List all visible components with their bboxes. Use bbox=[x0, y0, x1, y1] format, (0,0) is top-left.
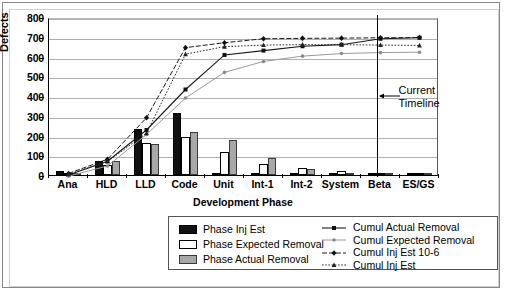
legend-line-icon bbox=[321, 223, 347, 232]
data-point-marker bbox=[223, 71, 227, 75]
legend-item: Phase Inj Est bbox=[179, 223, 265, 235]
data-line bbox=[69, 52, 420, 176]
x-tick-label: Beta bbox=[368, 178, 391, 190]
legend-item-label: Phase Inj Est bbox=[203, 223, 265, 235]
legend-item-label: Cumul Actual Removal bbox=[353, 221, 459, 233]
legend-swatch-icon bbox=[179, 240, 197, 249]
data-point-marker bbox=[418, 50, 422, 54]
y-tick-label: 400 bbox=[0, 91, 44, 103]
legend-item-label: Cumul Inj Est 10-6 bbox=[353, 246, 439, 258]
legend-item-label: Phase Expected Removal bbox=[203, 238, 324, 250]
y-tick-mark bbox=[40, 38, 44, 39]
data-point-marker bbox=[379, 51, 383, 55]
y-tick-label: 600 bbox=[0, 52, 44, 64]
current-timeline-label: CurrentTimeline bbox=[399, 84, 440, 109]
y-tick-mark bbox=[40, 117, 44, 118]
x-tick-label: ES/GS bbox=[402, 178, 434, 190]
plot-area: CurrentTimeline bbox=[48, 18, 438, 176]
x-tick-label: Int-2 bbox=[290, 178, 312, 190]
x-tick-mark bbox=[399, 174, 400, 178]
y-tick-label: 100 bbox=[0, 150, 44, 162]
y-tick-label: 500 bbox=[0, 71, 44, 83]
x-tick-mark bbox=[204, 174, 205, 178]
y-tick-mark bbox=[40, 58, 44, 59]
legend-swatch-icon bbox=[179, 225, 197, 234]
y-tick-label: 200 bbox=[0, 131, 44, 143]
y-tick-mark bbox=[40, 97, 44, 98]
legend-item: Cumul Actual Removal bbox=[321, 221, 459, 233]
data-point-marker bbox=[262, 60, 266, 64]
legend-item: Cumul Inj Est 10-6 bbox=[321, 246, 439, 258]
data-point-marker bbox=[339, 35, 344, 41]
y-tick-mark bbox=[40, 77, 44, 78]
x-tick-label: Code bbox=[171, 178, 197, 190]
data-point-marker bbox=[261, 36, 266, 42]
data-point-marker bbox=[261, 42, 266, 47]
legend-swatch-icon bbox=[179, 255, 197, 264]
x-tick-mark bbox=[282, 174, 283, 178]
x-tick-label: Ana bbox=[58, 178, 78, 190]
x-tick-label: System bbox=[322, 178, 359, 190]
x-tick-label: Unit bbox=[213, 178, 233, 190]
x-tick-label: LLD bbox=[135, 178, 155, 190]
data-point-marker bbox=[301, 54, 305, 58]
y-tick-label: 0 bbox=[0, 170, 44, 182]
data-point-marker bbox=[106, 164, 110, 168]
legend: Phase Inj EstPhase Expected RemovalPhase… bbox=[168, 216, 504, 272]
plot-area-wrapper: CurrentTimeline bbox=[48, 18, 438, 176]
data-point-marker bbox=[184, 96, 188, 100]
legend-line-icon bbox=[321, 235, 347, 244]
data-point-marker bbox=[223, 53, 227, 57]
legend-item-label: Phase Actual Removal bbox=[203, 253, 309, 265]
legend-item-label: Cumul Inj Est bbox=[353, 259, 415, 271]
data-point-marker bbox=[340, 52, 344, 56]
legend-line-icon bbox=[321, 248, 347, 257]
y-tick-mark bbox=[40, 18, 44, 19]
y-tick-mark bbox=[40, 176, 44, 177]
data-line bbox=[69, 38, 420, 174]
chart-screenshot: Defects 0100200300400500600700800 Curren… bbox=[0, 0, 506, 292]
data-point-marker bbox=[300, 36, 305, 42]
x-tick-mark bbox=[360, 174, 361, 178]
timeline-label-line2: Timeline bbox=[399, 97, 440, 109]
legend-item: Cumul Expected Removal bbox=[321, 234, 474, 246]
x-tick-mark bbox=[87, 174, 88, 178]
y-tick-label: 700 bbox=[0, 32, 44, 44]
x-axis-tick-labels: AnaHLDLLDCodeUnitInt-1Int-2SystemBetaES/… bbox=[48, 178, 438, 194]
legend-line-icon bbox=[321, 260, 347, 269]
y-tick-mark bbox=[40, 137, 44, 138]
data-point-marker bbox=[183, 45, 188, 51]
x-tick-label: Int-1 bbox=[251, 178, 273, 190]
x-tick-mark bbox=[48, 174, 49, 178]
timeline-arrow-icon bbox=[378, 91, 402, 101]
x-axis-title: Development Phase bbox=[48, 196, 438, 208]
x-tick-mark bbox=[126, 174, 127, 178]
x-tick-label: HLD bbox=[96, 178, 118, 190]
x-tick-mark bbox=[438, 174, 439, 178]
y-tick-mark bbox=[40, 156, 44, 157]
data-point-marker bbox=[183, 52, 188, 57]
legend-item: Cumul Inj Est bbox=[321, 259, 415, 271]
y-tick-label: 800 bbox=[0, 12, 44, 24]
data-point-marker bbox=[184, 88, 188, 92]
x-tick-mark bbox=[165, 174, 166, 178]
legend-item: Phase Actual Removal bbox=[179, 253, 309, 265]
timeline-label-line1: Current bbox=[399, 84, 436, 96]
y-axis-tick-labels: 0100200300400500600700800 bbox=[0, 18, 44, 176]
legend-item: Phase Expected Removal bbox=[179, 238, 324, 250]
y-tick-label: 300 bbox=[0, 111, 44, 123]
x-tick-mark bbox=[243, 174, 244, 178]
legend-item-label: Cumul Expected Removal bbox=[353, 234, 474, 246]
data-point-marker bbox=[262, 49, 266, 53]
legend-box: Phase Inj EstPhase Expected RemovalPhase… bbox=[168, 216, 498, 270]
